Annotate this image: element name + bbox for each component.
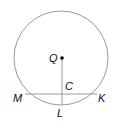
label-m: M [13,92,23,104]
label-l: L [57,107,63,119]
label-q: Q [49,52,58,64]
center-point-q [60,56,64,60]
circle-diagram: Q C M K L [0,0,117,130]
label-c: C [65,80,73,92]
label-k: K [98,92,106,104]
